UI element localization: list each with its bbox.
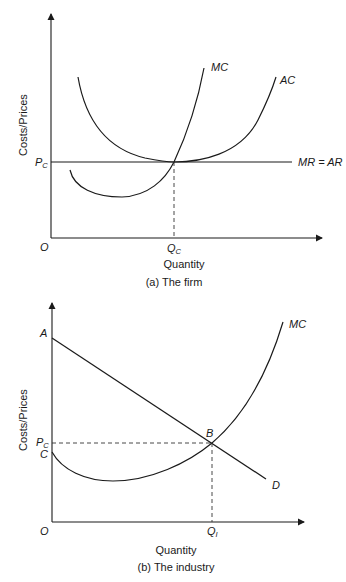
industry-point-c-label: C <box>40 448 48 460</box>
firm-qc-label: QC <box>167 242 182 256</box>
diagram-canvas: Costs/Prices O PC QC MC AC MR = AR Quant… <box>0 0 346 582</box>
firm-mr-ar-label: MR = AR <box>298 156 343 168</box>
firm-pc-label: PC <box>35 156 48 170</box>
firm-mc-label: MC <box>211 61 228 73</box>
firm-mc-curve <box>70 68 204 197</box>
firm-y-axis-label: Costs/Prices <box>17 94 29 156</box>
firm-ac-label: AC <box>279 74 295 86</box>
industry-demand-label: D <box>272 479 280 491</box>
industry-y-axis-label: Costs/Prices <box>17 389 29 451</box>
firm-origin-label: O <box>40 241 49 253</box>
industry-qi-label: QI <box>207 525 218 539</box>
industry-x-axis-label: Quantity <box>156 544 197 556</box>
industry-mc-curve <box>52 322 283 481</box>
firm-caption: (a) The firm <box>146 276 203 288</box>
industry-origin-label: O <box>40 525 49 537</box>
firm-chart: Costs/Prices O PC QC MC AC MR = AR Quant… <box>17 14 343 288</box>
industry-mc-label: MC <box>289 318 306 330</box>
industry-chart: Costs/Prices A PC C B D MC O QI Quantity… <box>17 303 306 573</box>
industry-point-b-label: B <box>206 427 213 439</box>
industry-point-a-label: A <box>39 327 47 339</box>
firm-x-axis-label: Quantity <box>164 258 205 270</box>
industry-caption: (b) The industry <box>138 561 215 573</box>
firm-ac-curve <box>78 77 276 162</box>
industry-demand-line <box>52 338 266 479</box>
